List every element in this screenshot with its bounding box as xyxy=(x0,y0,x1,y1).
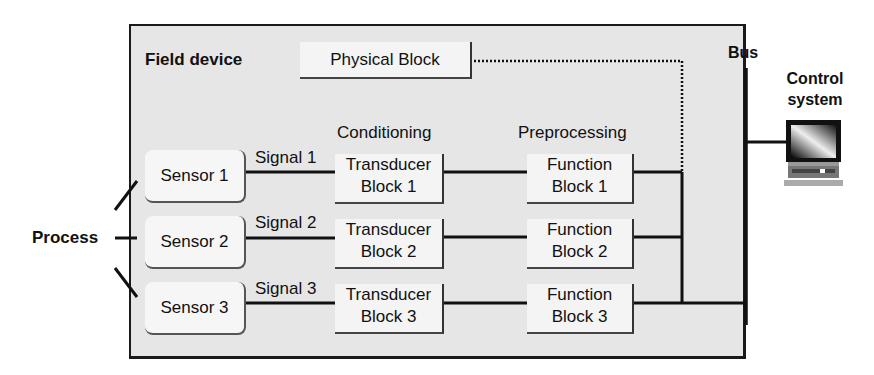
process-label: Process xyxy=(32,228,98,248)
function-block-2: Function Block 2 xyxy=(527,219,634,269)
conditioning-header: Conditioning xyxy=(337,123,432,143)
transducer-block-1-line1: Transducer xyxy=(335,154,442,176)
transducer-block-3: Transducer Block 3 xyxy=(335,284,444,334)
function-block-3-line2: Block 3 xyxy=(527,306,632,328)
function-block-2-line2: Block 2 xyxy=(527,241,632,263)
process-tick-1 xyxy=(115,181,137,210)
signal-2-label: Signal 2 xyxy=(255,213,316,233)
function-block-1: Function Block 1 xyxy=(527,154,634,204)
control-system-label: Control system xyxy=(775,68,855,110)
sensor-3-label: Sensor 3 xyxy=(160,298,228,318)
transducer-block-3-line2: Block 3 xyxy=(335,306,442,328)
sensor-3: Sensor 3 xyxy=(145,282,246,335)
function-block-3: Function Block 3 xyxy=(527,284,634,334)
function-block-1-line2: Block 1 xyxy=(527,176,632,198)
function-block-3-line1: Function xyxy=(527,284,632,306)
bus-label: Bus xyxy=(728,44,758,62)
control-system-label-line1: Control xyxy=(775,68,855,89)
function-block-1-line1: Function xyxy=(527,154,632,176)
transducer-block-1: Transducer Block 1 xyxy=(335,154,444,204)
function-block-2-line1: Function xyxy=(527,219,632,241)
process-tick-3 xyxy=(115,268,137,297)
computer-icon xyxy=(784,120,843,186)
transducer-block-1-line2: Block 1 xyxy=(335,176,442,198)
sensor-2-label: Sensor 2 xyxy=(160,232,228,252)
transducer-block-2-line1: Transducer xyxy=(335,219,442,241)
signal-1-label: Signal 1 xyxy=(255,148,316,168)
transducer-block-3-line1: Transducer xyxy=(335,284,442,306)
sensor-2: Sensor 2 xyxy=(145,216,246,269)
sensor-1-label: Sensor 1 xyxy=(160,166,228,186)
sensor-1: Sensor 1 xyxy=(145,150,246,203)
transducer-block-2: Transducer Block 2 xyxy=(335,219,444,269)
transducer-block-2-line2: Block 2 xyxy=(335,241,442,263)
preprocessing-header: Preprocessing xyxy=(518,123,627,143)
signal-3-label: Signal 3 xyxy=(255,279,316,299)
control-system-label-line2: system xyxy=(775,89,855,110)
